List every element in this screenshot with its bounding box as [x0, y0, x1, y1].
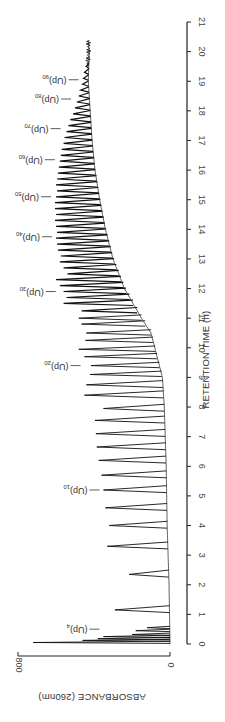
peak-label-subscript: 70	[24, 123, 31, 129]
peak	[129, 570, 169, 577]
peak	[57, 188, 98, 193]
peak	[73, 111, 90, 116]
x-tick-label: 20	[197, 47, 207, 57]
trace-tail	[85, 40, 91, 66]
peak-label-subscript: 50	[14, 191, 21, 197]
peak	[64, 288, 127, 293]
peak-annotation: (Up)4	[66, 624, 100, 635]
peak-label: (Up)40	[15, 231, 40, 242]
x-tick-label: 7	[197, 434, 207, 439]
peak-annotation: (Up)30	[19, 286, 56, 297]
peak	[55, 205, 101, 210]
peak	[61, 152, 94, 157]
peak	[70, 116, 91, 121]
peak-label-subscript: 80	[34, 93, 41, 99]
peak	[58, 170, 96, 175]
x-tick-label: 4	[197, 523, 207, 528]
peak-label-text: (Up)	[51, 361, 69, 371]
peak	[132, 633, 170, 635]
x-tick-label: 5	[197, 493, 207, 498]
peak	[62, 146, 93, 151]
peak	[64, 140, 93, 145]
chromatogram-trace-group	[33, 40, 170, 644]
x-tick-label: 13	[197, 254, 207, 264]
peak-label-text: (Up)	[49, 75, 67, 85]
x-tick-label: 21	[197, 17, 207, 27]
peak	[56, 276, 121, 281]
peak-label-text: (Up)	[25, 155, 43, 165]
y-tick-label: 800	[14, 657, 24, 672]
peak	[85, 391, 164, 398]
peak	[61, 253, 112, 258]
x-tick-label: 14	[197, 224, 207, 234]
y-axis-title: ABSORBANCE (260nm)	[38, 692, 146, 703]
peak	[57, 229, 106, 234]
peak-annotation: (Up)50	[14, 191, 51, 202]
peak-label: (Up)90	[42, 74, 67, 85]
peak-label-subscript: 90	[42, 74, 49, 80]
peak	[91, 362, 159, 367]
peak	[85, 353, 158, 358]
peak-label-text: (Up)	[22, 232, 40, 242]
x-tick-label: 19	[197, 76, 207, 86]
peak	[82, 321, 146, 326]
peak	[84, 75, 89, 80]
peak	[102, 471, 167, 478]
peak	[68, 122, 91, 127]
peak	[86, 330, 151, 335]
peak	[55, 217, 104, 222]
peak	[82, 308, 138, 313]
y-tick-label: 0	[166, 662, 176, 667]
peak-annotation: (Up)70	[24, 123, 61, 134]
peak-label: (Up)80	[34, 93, 59, 104]
peak-label: (Up)30	[19, 286, 44, 297]
peak	[104, 404, 165, 411]
peak	[81, 87, 89, 92]
peak	[95, 416, 165, 423]
peak	[105, 504, 166, 511]
peak-label-subscript: 4	[66, 624, 70, 630]
peak-label-subscript: 10	[63, 484, 70, 490]
peak	[56, 193, 99, 198]
peak-label: (Up)60	[18, 154, 43, 165]
x-tick-label: 15	[197, 195, 207, 205]
peak	[58, 247, 111, 252]
peak	[57, 241, 109, 246]
peak-label-text: (Up)	[22, 192, 40, 202]
peak	[60, 282, 124, 287]
peak-label: (Up)4	[66, 624, 88, 635]
peak	[77, 99, 90, 104]
peak-label-subscript: 20	[44, 360, 51, 366]
peak	[57, 176, 96, 181]
peak	[86, 337, 153, 342]
x-axis-title: RETENTION TIME (h)	[200, 311, 211, 409]
peak-annotation: (Up)80	[34, 93, 71, 104]
x-tick-label: 0	[197, 641, 207, 646]
x-tick-label: 6	[197, 464, 207, 469]
peak	[67, 294, 130, 299]
x-tick-label: 18	[197, 106, 207, 116]
peak-label-text: (Up)	[31, 124, 49, 134]
peak-label-text: (Up)	[70, 486, 88, 496]
peak	[136, 629, 170, 631]
x-tick-label: 1	[197, 612, 207, 617]
peak	[67, 128, 92, 133]
peak	[56, 182, 97, 187]
peak	[79, 315, 142, 320]
peak	[83, 81, 89, 86]
peak	[65, 134, 92, 139]
peak	[64, 300, 133, 305]
chromatogram-chart: 0123456789101112131415161718192021 0800 …	[0, 0, 225, 722]
peak-label-subscript: 40	[15, 231, 22, 237]
peak-label-text: (Up)	[41, 95, 59, 105]
peak-label: (Up)10	[63, 484, 88, 495]
peak	[64, 265, 117, 270]
peak-label-subscript: 30	[19, 286, 26, 292]
peak-annotation: (Up)60	[18, 154, 55, 165]
peak-label-text: (Up)	[70, 625, 88, 635]
peak	[104, 486, 167, 493]
peak	[86, 381, 162, 388]
peak-label: (Up)70	[24, 123, 49, 134]
x-tick-label: 12	[197, 284, 207, 294]
peak	[56, 223, 105, 228]
